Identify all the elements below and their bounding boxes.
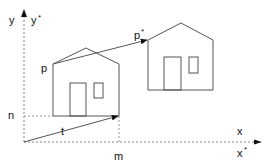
y-axis bbox=[21, 9, 27, 142]
p-star-label: p bbox=[134, 29, 140, 41]
original-house bbox=[53, 48, 119, 116]
y-star-mark: * bbox=[38, 13, 41, 22]
p-to-p-star-arrow bbox=[53, 40, 147, 64]
original-house-door bbox=[70, 83, 86, 116]
m-label: m bbox=[114, 150, 123, 162]
n-label: n bbox=[8, 109, 14, 121]
t-label: t bbox=[61, 125, 64, 137]
x-axis-arrow-icon bbox=[254, 140, 262, 145]
x-star-axis-label: x bbox=[237, 147, 243, 159]
x-axis bbox=[24, 140, 262, 145]
p-label: p bbox=[41, 62, 47, 74]
translation-vector-t bbox=[24, 116, 118, 142]
y-axis-label: y bbox=[9, 14, 15, 26]
x-star-mark: * bbox=[244, 145, 247, 154]
translated-house-door bbox=[164, 57, 181, 90]
y-axis-arrow-icon bbox=[21, 9, 27, 17]
p-star-mark: * bbox=[141, 27, 144, 36]
y-star-axis-label: y bbox=[31, 14, 37, 26]
translated-house bbox=[148, 23, 213, 90]
x-axis-label: x bbox=[237, 125, 243, 137]
translated-house-window bbox=[189, 57, 198, 73]
translation-diagram: y y * x x * n m p p * t bbox=[0, 0, 270, 163]
original-house-window bbox=[94, 83, 103, 98]
